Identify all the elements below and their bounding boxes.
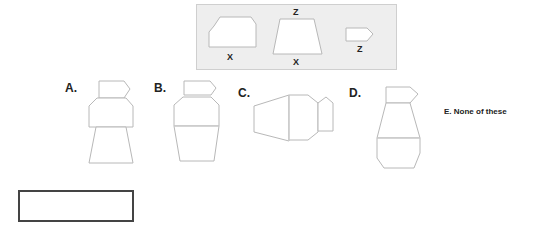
reference-shape-x-hexagon — [209, 17, 256, 47]
reference-shape1-label: X — [227, 52, 233, 62]
option-c-pentagon — [318, 97, 333, 131]
option-e-label[interactable]: E. None of these — [444, 107, 507, 116]
option-c-trapezoid — [254, 95, 289, 141]
reference-shape-zx-trapezoid — [273, 19, 322, 54]
option-a-label[interactable]: A. — [65, 81, 77, 95]
option-d-label[interactable]: D. — [349, 86, 361, 100]
reference-shape2-bottom-label: X — [293, 57, 299, 67]
option-a-hexagon — [89, 98, 133, 127]
option-d-pentagon — [386, 87, 418, 103]
option-a-pentagon — [99, 81, 130, 98]
answer-input-box[interactable] — [18, 190, 134, 222]
option-c-label[interactable]: C. — [238, 86, 250, 100]
option-b-trapezoid — [174, 126, 219, 161]
option-d-trapezoid — [377, 103, 420, 138]
reference-shape-z-pentagon — [346, 28, 373, 41]
option-d-octagon — [377, 138, 420, 168]
option-b-hexagon — [174, 97, 219, 126]
reference-shape2-top-label: Z — [293, 7, 299, 17]
option-a-trapezoid — [89, 127, 133, 163]
option-c-hexagon — [289, 95, 318, 140]
reference-shape3-label: Z — [357, 44, 363, 54]
option-b-pentagon — [184, 81, 216, 95]
option-b-label[interactable]: B. — [154, 81, 166, 95]
